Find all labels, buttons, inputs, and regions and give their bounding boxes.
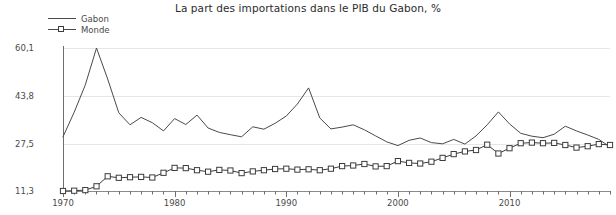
x-axis-tick-label: 1980 bbox=[164, 198, 186, 208]
chart-container: La part des importations dans le PIB du … bbox=[0, 0, 616, 215]
x-axis-tick-label: 2000 bbox=[387, 198, 409, 208]
x-axis-tick-label: 2010 bbox=[499, 198, 521, 208]
x-axis-tick-label: 1970 bbox=[52, 198, 74, 208]
x-axis-tick-labels: 19701980199020002010 bbox=[0, 0, 616, 215]
x-axis-tick-label: 1990 bbox=[275, 198, 297, 208]
